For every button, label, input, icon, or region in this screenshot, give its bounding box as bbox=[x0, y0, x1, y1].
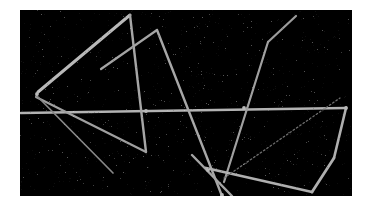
line-map-canvas bbox=[20, 10, 352, 196]
segment-bottom-right-rise bbox=[312, 158, 334, 192]
figure-root bbox=[0, 0, 368, 207]
segment-bent-line-upper-right-top bbox=[268, 16, 296, 42]
segment-bottom-horizontal-run bbox=[206, 168, 312, 192]
segment-long-horizontal-baseline bbox=[21, 108, 346, 113]
segment-second-peak-long-fall bbox=[157, 30, 222, 196]
segment-bent-line-upper-right-descent bbox=[224, 42, 268, 182]
segment-triangle-lower-return-edge bbox=[36, 97, 146, 152]
segment-triangle-right-descending-edge bbox=[130, 15, 146, 152]
junction-right-corner-node bbox=[344, 106, 348, 110]
segment-right-vertical-edge bbox=[334, 108, 346, 158]
junction-horizontal-crossing-right bbox=[242, 106, 246, 110]
segment-fan-line-to-lower-right bbox=[36, 95, 113, 173]
junction-left-fan-node bbox=[35, 92, 39, 96]
line-segment-layer bbox=[20, 10, 352, 196]
junction-horizontal-crossing-mid bbox=[144, 109, 148, 113]
segment-second-peak-left-rise bbox=[101, 30, 157, 69]
junction-lower-left-cross bbox=[206, 168, 210, 172]
segment-triangle-upper-left-edge bbox=[38, 15, 130, 92]
